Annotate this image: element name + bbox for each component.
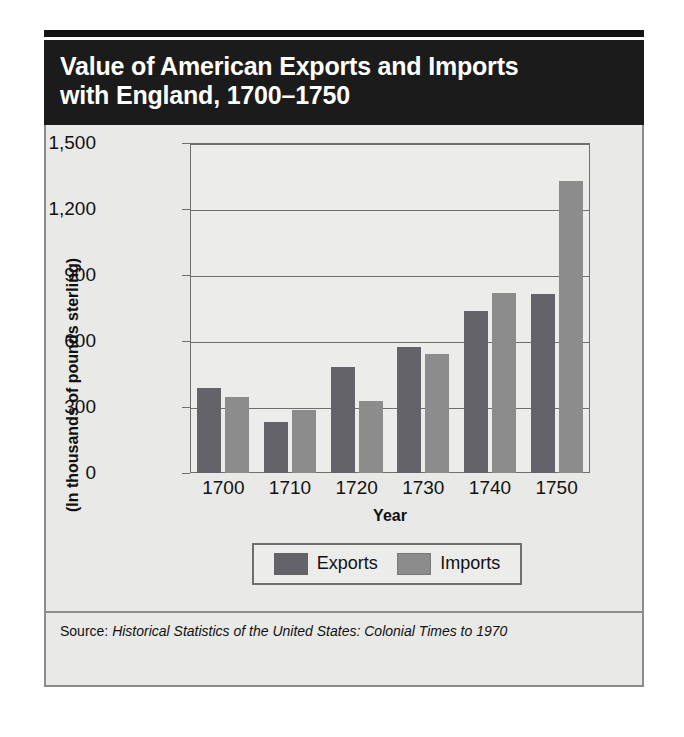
source-title: Historical Statistics of the United Stat… [112, 623, 507, 639]
chart-title-bar: Value of American Exports and Imports wi… [44, 40, 644, 125]
x-axis-tick-label: 1710 [261, 477, 319, 499]
legend-item-exports: Exports [274, 553, 378, 575]
gridline [191, 342, 589, 343]
y-axis-tick-mark [182, 143, 190, 144]
y-axis-tick-mark [182, 473, 190, 474]
y-axis-tick-label: 0 [0, 462, 96, 484]
x-axis-tick-label: 1720 [328, 477, 386, 499]
y-axis-tick-label: 1,200 [0, 198, 96, 220]
y-axis-tick-mark [182, 341, 190, 342]
source-note: Source: Historical Statistics of the Uni… [60, 623, 507, 639]
legend-swatch-imports [397, 553, 431, 575]
legend-swatch-exports [274, 553, 308, 575]
y-axis-tick-mark [182, 407, 190, 408]
gridline [191, 210, 589, 211]
y-axis-tick-label: 1,500 [0, 132, 96, 154]
y-axis-tick-label: 600 [0, 330, 96, 352]
x-axis-tick-label: 1740 [461, 477, 519, 499]
legend-item-imports: Imports [397, 553, 500, 575]
gridline [191, 144, 589, 145]
y-axis-tick-label: 300 [0, 396, 96, 418]
plot-wrapper: (In thousands of pounds sterling) 030060… [46, 125, 642, 685]
x-axis-label: Year [190, 507, 590, 525]
legend-label-imports: Imports [440, 553, 500, 574]
top-rule [44, 30, 644, 37]
chart-legend: ExportsImports [252, 543, 522, 585]
page-title: Value of American Exports and Imports wi… [60, 52, 628, 111]
source-prefix: Source: [60, 623, 108, 639]
gridline [191, 276, 589, 277]
gridline [191, 408, 589, 409]
chart-panel: (In thousands of pounds sterling) 030060… [44, 125, 644, 687]
x-axis-tick-label: 1750 [528, 477, 586, 499]
y-axis-tick-mark [182, 275, 190, 276]
x-axis-tick-label: 1700 [194, 477, 252, 499]
legend-label-exports: Exports [317, 553, 378, 574]
x-axis-tick-label: 1730 [394, 477, 452, 499]
y-axis-tick-mark [182, 209, 190, 210]
y-axis-tick-label: 900 [0, 264, 96, 286]
chart-figure: Value of American Exports and Imports wi… [44, 30, 644, 700]
plot-area [190, 143, 590, 473]
source-divider [46, 611, 642, 613]
x-axis-tick-labels: 170017101720173017401750 [190, 477, 590, 499]
